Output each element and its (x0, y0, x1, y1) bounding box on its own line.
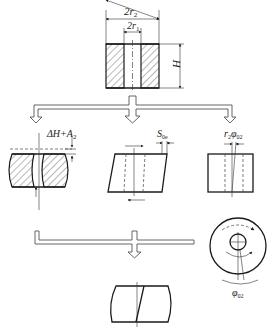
combined-deformation-cylinder (111, 282, 171, 327)
merge-arrow-bottom (35, 231, 194, 258)
height-label: H (170, 59, 182, 69)
compression-label: ΔH+A2 (46, 128, 77, 141)
original-cylinder: 2r2 2r1 H (106, 0, 184, 92)
compression-cylinder: ΔH+A2 (9, 128, 77, 210)
shear-label: S0e (157, 128, 168, 140)
torsion-top-view: φ02 (210, 218, 266, 299)
branch-arrow-top (30, 96, 236, 123)
outer-diameter-label: 2r2 (124, 5, 138, 19)
diagram-canvas: 2r2 2r1 H ΔH+A2 (0, 0, 271, 333)
torsion-cylinder: r2φ02 (208, 128, 253, 197)
torsion-angle-label: φ02 (232, 287, 244, 299)
torsion-label: r2φ02 (224, 128, 242, 140)
inner-diameter-label: 2r1 (127, 20, 140, 33)
shear-cylinder: S0e (108, 128, 174, 200)
